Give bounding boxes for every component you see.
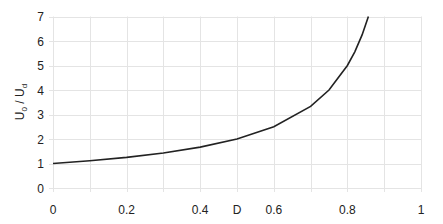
x-tick-label: 0.6 [265, 203, 282, 217]
y-tick-label: 3 [37, 108, 44, 122]
x-tick-label: 0 [50, 203, 57, 217]
y-axis-ticks: 01234567 [37, 10, 44, 196]
x-tick-label: 0.8 [339, 203, 356, 217]
x-tick-label: 0.2 [118, 203, 135, 217]
grid-lines [49, 17, 422, 193]
y-axis-label: U0 / Ud [13, 84, 29, 120]
y-tick-label: 0 [37, 182, 44, 196]
y-tick-label: 6 [37, 35, 44, 49]
x-tick-label: 1 [418, 203, 425, 217]
y-tick-label: 1 [37, 157, 44, 171]
x-tick-label: 0.4 [192, 203, 209, 217]
y-tick-label: 4 [37, 84, 44, 98]
y-tick-label: 5 [37, 59, 44, 73]
chart: 01234567 00.20.40.60.81 D U0 / Ud [0, 0, 443, 224]
x-axis-label: D [233, 203, 242, 217]
y-tick-label: 2 [37, 133, 44, 147]
y-tick-label: 7 [37, 10, 44, 24]
